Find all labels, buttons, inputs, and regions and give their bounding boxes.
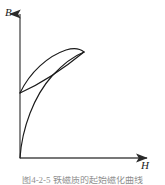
figure-container: B H 图4-2-5 铁磁质的起始磁化曲线: [0, 0, 165, 185]
bh-curve-plot: [0, 0, 165, 185]
x-axis-label-h: H: [141, 160, 149, 171]
y-axis-label-b: B: [5, 7, 12, 18]
figure-caption: 图4-2-5 铁磁质的起始磁化曲线: [0, 176, 165, 185]
initial-magnetization-curve: [20, 52, 84, 158]
upper-branch-curve: [20, 49, 84, 93]
chord-line: [20, 52, 84, 93]
